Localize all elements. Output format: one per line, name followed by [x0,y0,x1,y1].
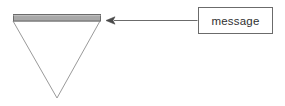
message-box-shape[interactable] [199,8,273,34]
inverted-triangle-shape[interactable] [13,21,100,98]
shaded-top-bar[interactable] [14,15,101,22]
diagram-canvas [0,0,285,106]
arrowhead-icon [106,17,115,24]
